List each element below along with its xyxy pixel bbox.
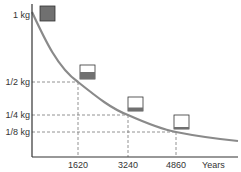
y-tick-half-kg: 1/2 kg xyxy=(0,77,30,87)
sample-box-eighth xyxy=(174,115,189,129)
x-axis-unit: Years xyxy=(202,160,225,170)
guide-lines xyxy=(32,82,176,157)
sample-box-half xyxy=(80,65,95,79)
axes xyxy=(32,4,238,157)
x-tick-1620: 1620 xyxy=(68,160,88,170)
sample-box-quarter xyxy=(128,97,143,111)
decay-curve xyxy=(32,12,238,141)
x-tick-4860: 4860 xyxy=(166,160,186,170)
y-tick-quarter-kg: 1/4 kg xyxy=(0,110,30,120)
y-tick-1kg: 1 kg xyxy=(0,10,30,20)
x-tick-3240: 3240 xyxy=(118,160,138,170)
decay-chart xyxy=(0,0,241,172)
y-tick-eighth-kg: 1/8 kg xyxy=(0,127,30,137)
sample-box-full xyxy=(40,6,55,21)
